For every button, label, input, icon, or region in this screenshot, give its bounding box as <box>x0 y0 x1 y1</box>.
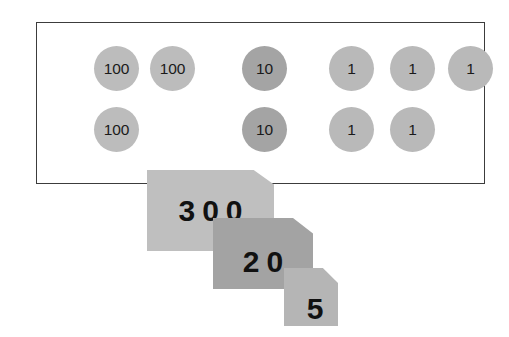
place-value-card-ones[interactable]: 5 <box>284 268 338 326</box>
counter-hundred[interactable]: 100 <box>94 46 139 91</box>
diagram-canvas: 100 100 10 1 1 1 100 10 1 1 300 20 5 <box>0 0 509 337</box>
counter-value: 100 <box>104 61 129 77</box>
counter-value: 100 <box>104 122 129 138</box>
counter-one[interactable]: 1 <box>390 46 435 91</box>
counter-value: 10 <box>256 61 273 77</box>
counter-value: 1 <box>347 61 355 77</box>
counter-value: 100 <box>160 61 185 77</box>
counter-one[interactable]: 1 <box>390 107 435 152</box>
counter-hundred[interactable]: 100 <box>94 107 139 152</box>
counter-frame: 100 100 10 1 1 1 100 10 1 1 <box>36 22 485 184</box>
counter-value: 1 <box>408 61 416 77</box>
place-value-card-label: 5 <box>284 268 342 337</box>
counter-value: 1 <box>408 122 416 138</box>
counter-one[interactable]: 1 <box>329 107 374 152</box>
counter-value: 1 <box>466 61 474 77</box>
counter-ten[interactable]: 10 <box>242 46 287 91</box>
counter-one[interactable]: 1 <box>448 46 493 91</box>
counter-hundred[interactable]: 100 <box>150 46 195 91</box>
counter-ten[interactable]: 10 <box>242 107 287 152</box>
counter-row-hundreds-tens-ones-bottom: 100 10 1 1 <box>37 107 484 153</box>
counter-one[interactable]: 1 <box>329 46 374 91</box>
counter-value: 10 <box>256 122 273 138</box>
counter-row-hundreds-tens-ones-top: 100 100 10 1 1 1 <box>37 46 484 92</box>
counter-value: 1 <box>347 122 355 138</box>
